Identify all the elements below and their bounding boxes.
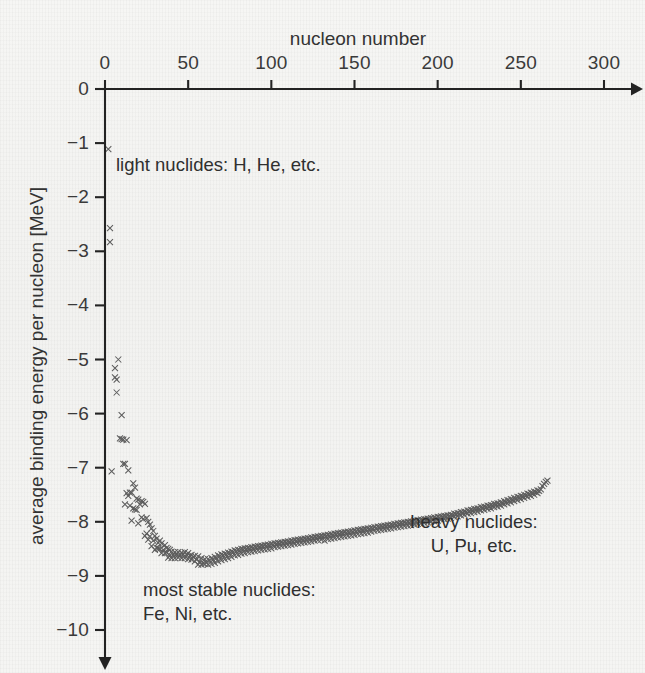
x-axis-tick-label: 50	[177, 52, 199, 74]
data-marker	[112, 365, 118, 371]
data-marker	[125, 467, 131, 473]
x-axis-tick-label: 300	[588, 52, 620, 74]
y-axis-tick-label: −7	[30, 457, 89, 479]
y-axis-tick-label: −6	[30, 403, 89, 425]
binding-energy-chart: nucleon number average binding energy pe…	[0, 0, 645, 673]
y-axis-tick-label: −2	[30, 186, 89, 208]
x-axis-title: nucleon number	[290, 28, 426, 50]
data-marker	[114, 377, 120, 383]
x-axis-tick-label: 150	[338, 52, 370, 74]
y-axis-tick-label: −1	[30, 132, 89, 154]
x-axis-tick-label: 250	[505, 52, 537, 74]
plot-canvas	[0, 0, 645, 673]
data-marker	[105, 146, 111, 152]
x-axis-tick-label: 0	[100, 52, 111, 74]
y-axis-tick-label: −10	[30, 619, 89, 641]
data-marker	[142, 501, 148, 507]
data-marker	[109, 468, 115, 474]
data-marker	[129, 518, 135, 524]
data-marker	[150, 528, 156, 534]
data-marker	[119, 412, 125, 418]
annotation-most-stable-nuclides: most stable nuclides: Fe, Ni, etc.	[143, 578, 316, 627]
y-axis-tick-label: 0	[30, 78, 89, 100]
data-marker	[107, 239, 113, 245]
y-axis-tick-label: −9	[30, 565, 89, 587]
x-axis-tick-label: 100	[255, 52, 287, 74]
y-axis-arrowhead	[99, 657, 112, 670]
x-axis-arrowhead	[631, 83, 643, 96]
y-axis-tick-label: −3	[30, 240, 89, 262]
data-marker	[115, 357, 121, 363]
y-axis-tick-label: −8	[30, 511, 89, 533]
data-marker	[107, 225, 113, 231]
y-axis-tick-label: −5	[30, 349, 89, 371]
data-marker	[114, 390, 120, 396]
annotation-light-nuclides: light nuclides: H, He, etc.	[116, 153, 321, 177]
x-axis-tick-label: 200	[422, 52, 454, 74]
data-markers-group	[105, 146, 550, 567]
y-axis-tick-label: −4	[30, 294, 89, 316]
annotation-heavy-nuclides: heavy nuclides: U, Pu, etc.	[410, 510, 538, 559]
data-marker	[122, 501, 128, 507]
